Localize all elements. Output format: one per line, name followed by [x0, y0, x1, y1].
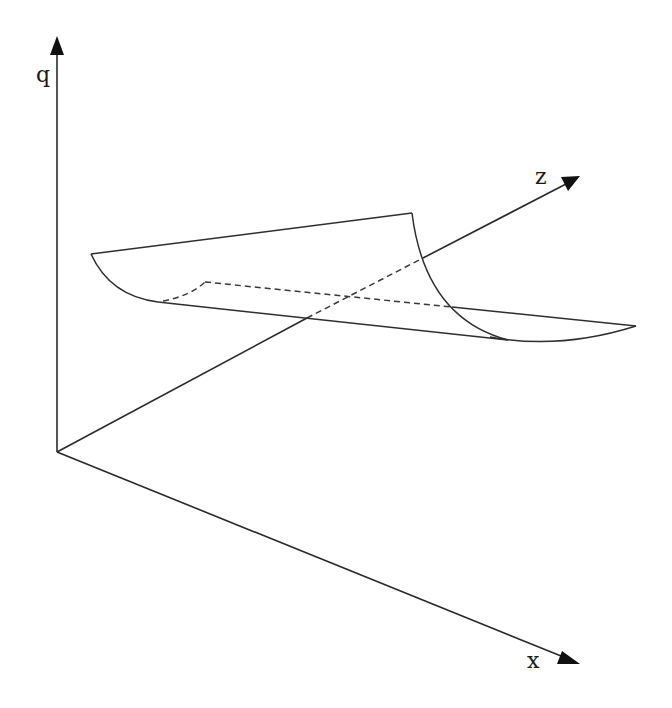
- x-axis-arrowhead-icon: [557, 651, 580, 664]
- q-axis-arrowhead-icon: [50, 36, 64, 55]
- x-axis-line: [57, 452, 566, 658]
- surface-far-edge-hidden: [205, 282, 452, 307]
- surface-top-edge: [91, 213, 412, 254]
- z-axis-line-hidden: [307, 258, 423, 318]
- z-axis-arrowhead-icon: [561, 176, 580, 191]
- surface-left-curve: [91, 254, 158, 302]
- z-axis-label: z: [535, 166, 547, 188]
- diagram-canvas: [0, 0, 672, 708]
- surface-hidden-left-curve: [163, 282, 205, 301]
- z-axis-line-front: [57, 318, 307, 452]
- z-axis-line-back: [423, 184, 566, 258]
- surface-right-curve: [412, 213, 508, 340]
- q-axis-label: q: [36, 64, 50, 86]
- x-axis-label: x: [527, 650, 539, 672]
- surface-bottom-far-curve: [490, 326, 636, 342]
- surface-far-edge-visible: [452, 307, 636, 326]
